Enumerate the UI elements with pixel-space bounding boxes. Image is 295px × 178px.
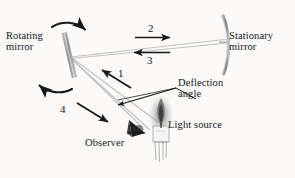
- rotating-mirror-icon: [62, 33, 77, 78]
- stationary-mirror-icon: [219, 16, 229, 74]
- label-rotating-mirror: Rotating mirror: [6, 30, 43, 53]
- direction-arrow-1: [102, 70, 131, 88]
- rotation-arrow-bottom-icon: [40, 86, 73, 93]
- rotation-arrow-top-icon: [52, 23, 85, 30]
- label-ray-number-1: 1: [118, 68, 124, 80]
- label-deflection-angle: Deflection angle: [178, 77, 223, 100]
- label-ray-number-4: 4: [60, 104, 66, 116]
- figure-canvas: Rotating mirror Stationary mirror Deflec…: [0, 0, 295, 178]
- label-observer: Observer: [85, 137, 124, 148]
- label-ray-number-3: 3: [147, 55, 153, 67]
- direction-arrow-4: [77, 103, 108, 122]
- label-ray-number-2: 2: [148, 23, 154, 35]
- label-light-source: Light source: [168, 119, 222, 130]
- ray-deflected-to-observer: [72, 60, 150, 131]
- label-stationary-mirror: Stationary mirror: [229, 30, 273, 53]
